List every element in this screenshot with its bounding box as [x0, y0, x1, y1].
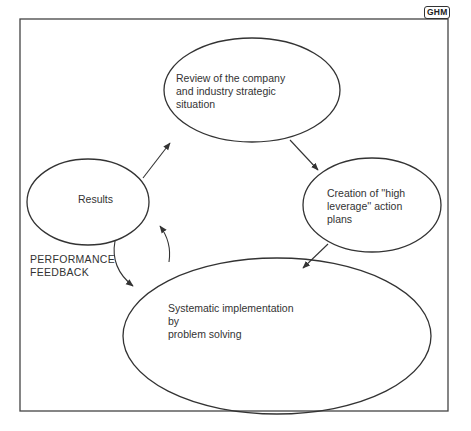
arrow-creation-to-implementation: [303, 244, 328, 268]
arrow-implementation-to-results: [160, 226, 170, 262]
node-review-label: Review of the company and industry strat…: [176, 72, 285, 111]
arrow-results-to-review: [143, 143, 170, 178]
arrow-review-to-creation: [290, 140, 318, 170]
arrow-feedback-results-to-implementation: [114, 241, 133, 286]
node-implementation-label: Systematic implementation by problem sol…: [168, 302, 293, 341]
ghm-badge: GHM: [424, 6, 450, 19]
node-results-label: Results: [78, 193, 113, 206]
node-creation-label: Creation of ''high leverage'' action pla…: [327, 187, 405, 226]
performance-feedback-label: PERFORMANCE FEEDBACK: [30, 253, 115, 279]
